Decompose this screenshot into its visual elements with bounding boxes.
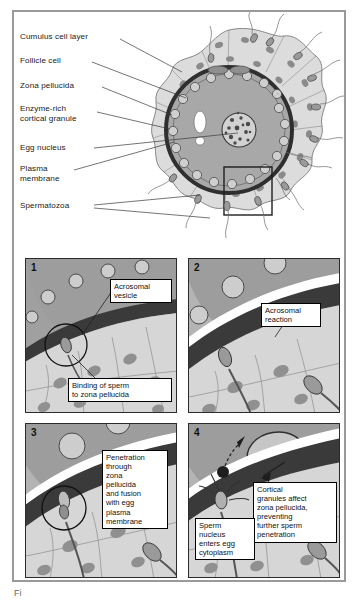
white-vesicle xyxy=(194,111,206,145)
panel-penetration: 3 Penetration through zona pellucida and… xyxy=(25,423,177,578)
top-diagram: Cumulus cell layer Follicle cell Zona pe… xyxy=(14,12,344,250)
panel-4-number: 4 xyxy=(194,427,200,438)
panel-2-illustration xyxy=(189,259,340,413)
figure-frame: Cumulus cell layer Follicle cell Zona pe… xyxy=(12,10,346,582)
label-egg-nucleus: Egg nucleus xyxy=(20,143,66,153)
textbox-sperm-nucleus-enters: Sperm nucleus enters egg cytoplasm xyxy=(195,518,255,560)
panel-2-number: 2 xyxy=(194,262,200,273)
label-enzyme-rich-cortical-granule: Enzyme-rich cortical granule xyxy=(20,104,77,123)
textbox-binding-of-sperm: Binding of sperm to zona pellucida xyxy=(68,378,172,402)
panel-binding: 1 Acrosomal vesicle Binding of sperm to … xyxy=(25,258,177,413)
textbox-cortical-granules: Cortical granules affect zona pellucida,… xyxy=(253,482,337,543)
panel-3-number: 3 xyxy=(31,427,37,438)
textbox-acrosomal-vesicle: Acrosomal vesicle xyxy=(110,279,172,303)
egg-illustration xyxy=(14,12,344,250)
label-zona-pellucida: Zona pellucida xyxy=(20,81,74,91)
textbox-acrosomal-reaction: Acrosomal reaction xyxy=(261,303,321,327)
textbox-penetration: Penetration through zona pellucida and f… xyxy=(102,450,168,529)
step-panels: 1 Acrosomal vesicle Binding of sperm to … xyxy=(22,258,340,578)
label-plasma-membrane: Plasma membrane xyxy=(20,164,60,183)
panel-1-number: 1 xyxy=(31,262,37,273)
label-follicle-cell: Follicle cell xyxy=(20,56,61,66)
panel-cortical-reaction: 4 Cortical granules affect zona pellucid… xyxy=(188,423,340,578)
label-spermatozoa: Spermatozoa xyxy=(20,201,69,211)
figure-caption-fragment: Fi xyxy=(14,588,22,598)
panel-acrosomal-reaction: 2 Acrosomal reaction xyxy=(188,258,340,413)
label-cumulus-cell-layer: Cumulus cell layer xyxy=(20,32,88,42)
